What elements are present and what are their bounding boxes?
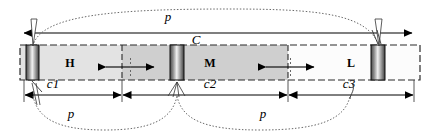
pointer-p-top: p (31, 9, 382, 46)
pointer-p-bottom-right-label: p (259, 106, 267, 121)
fan-line-1 (168, 82, 177, 96)
dimension-c2-label: c2 (204, 76, 217, 91)
band-middle-icon (170, 45, 184, 80)
dimension-c3-label: c3 (343, 76, 356, 91)
dimension-c1-label: c1 (47, 76, 59, 91)
figure-root: H M L C p (0, 0, 433, 137)
band-right-icon (371, 45, 385, 80)
segment-label-H: H (65, 56, 75, 70)
band-left-icon (26, 45, 39, 80)
bar-body (20, 45, 420, 80)
dimension-C-label: C (192, 32, 201, 47)
diagram-canvas: H M L C p (0, 0, 433, 137)
segment-label-L: L (347, 56, 355, 70)
pointer-p-top-curve (33, 9, 379, 46)
pointer-p-top-label: p (164, 9, 172, 24)
pointer-p-bottom-left-curve (33, 96, 177, 130)
pointer-p-bottom-left-label: p (67, 106, 75, 121)
segment-label-M: M (204, 56, 215, 70)
